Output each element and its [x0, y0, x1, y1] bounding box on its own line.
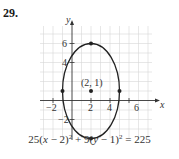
- covertex-right: [118, 89, 122, 93]
- tick-label-y-4: 4: [62, 57, 67, 68]
- ellipse-equation: 25(x − 2)2 + 9(y − 1)2 = 225: [0, 133, 179, 145]
- tick-label-x-6: 6: [134, 102, 139, 113]
- center-label: (2, 1): [81, 77, 103, 89]
- equation-part: − 1): [98, 133, 119, 145]
- equation-part: 25(: [28, 133, 43, 145]
- y-axis-arrow-icon: [70, 20, 74, 25]
- equation-part: − 2): [48, 133, 69, 145]
- equation-part: + 9(: [72, 133, 93, 145]
- center-point: [89, 89, 93, 93]
- tick-label-y-neg2: −2: [58, 114, 69, 125]
- y-axis-label: y: [65, 14, 71, 25]
- tick-label-x-4: 4: [107, 102, 112, 113]
- tick-label-x-neg2: −2: [46, 102, 57, 113]
- tick-label-y-6: 6: [62, 38, 67, 49]
- covertex-left: [61, 89, 65, 93]
- vertex-top: [89, 42, 93, 46]
- x-axis-label: x: [159, 99, 165, 110]
- equation-rhs: = 225: [122, 133, 150, 145]
- tick-label-x-2: 2: [88, 102, 93, 113]
